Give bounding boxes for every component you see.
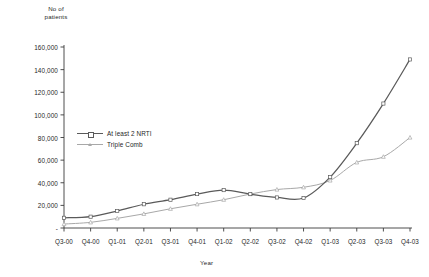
x-tick-label: Q4-00	[82, 238, 100, 245]
x-tick-label: Q2-02	[241, 238, 259, 245]
y-tick-label: 120,000	[34, 89, 58, 96]
x-tick-label: Q3-03	[374, 238, 392, 245]
y-axis-title: No of patients	[20, 5, 92, 21]
y-tick-label: 40,000	[38, 179, 58, 186]
chart-legend: At least 2 NRTITriple Comb	[77, 128, 152, 150]
plot-area	[0, 0, 429, 277]
y-tick-label: 140,000	[34, 66, 58, 73]
x-tick-label: Q1-02	[215, 238, 233, 245]
y-tick-label: 100,000	[34, 111, 58, 118]
legend-swatch-icon	[77, 130, 103, 137]
x-tick-label: Q3-02	[268, 238, 286, 245]
x-axis-title: Year	[200, 259, 213, 266]
y-tick-label: 20,000	[38, 202, 58, 209]
legend-item-1[interactable]: At least 2 NRTI	[77, 128, 152, 139]
legend-label: At least 2 NRTI	[107, 130, 152, 137]
x-tick-label: Q1-03	[321, 238, 339, 245]
legend-label: Triple Comb	[107, 141, 143, 148]
x-tick-label: Q4-02	[295, 238, 313, 245]
x-tick-label: Q2-01	[135, 238, 153, 245]
x-tick-label: Q2-03	[348, 238, 366, 245]
y-tick-label: -	[56, 225, 58, 232]
x-tick-label: Q3-00	[55, 238, 73, 245]
y-tick-label: 80,000	[38, 134, 58, 141]
x-tick-label: Q3-01	[162, 238, 180, 245]
y-tick-label: 60,000	[38, 157, 58, 164]
x-tick-label: Q1-01	[108, 238, 126, 245]
legend-swatch-icon	[77, 141, 103, 148]
legend-item-2[interactable]: Triple Comb	[77, 139, 152, 150]
chart-figure: No of patients Year -20,00040,00060,0008…	[0, 0, 429, 277]
x-tick-label: Q4-01	[188, 238, 206, 245]
x-tick-label: Q4-03	[401, 238, 419, 245]
y-tick-label: 160,000	[34, 44, 58, 51]
